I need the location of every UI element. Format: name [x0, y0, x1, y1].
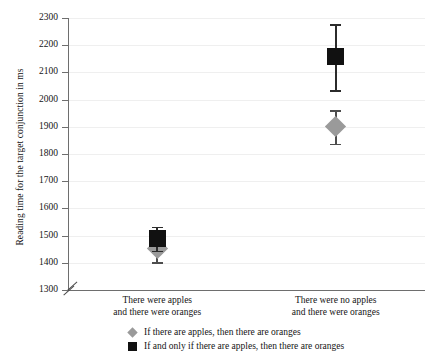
y-tick-mark — [62, 181, 68, 182]
y-tick-label: 1700 — [12, 176, 58, 186]
y-tick-mark — [62, 263, 68, 264]
y-tick-label: 2200 — [12, 40, 58, 50]
y-tick-mark — [62, 72, 68, 73]
gridline — [68, 154, 425, 155]
error-bar-chart: Reading time for the target conjunction … — [0, 0, 434, 360]
x-category-label-line: There were apples — [77, 295, 237, 307]
gridline — [68, 45, 425, 46]
y-tick-label: 1600 — [12, 203, 58, 213]
y-tick-label: 1800 — [12, 149, 58, 159]
y-tick-label: 1300 — [12, 285, 58, 295]
gridline — [68, 72, 425, 73]
y-tick-mark — [62, 290, 68, 291]
y-tick-mark — [62, 208, 68, 209]
y-tick-label: 2100 — [12, 67, 58, 77]
x-category-label: There were no applesand there were orang… — [256, 295, 416, 318]
error-bar-cap-upper — [330, 24, 341, 26]
gridline — [68, 127, 425, 128]
x-axis-line — [68, 290, 425, 291]
y-tick-mark — [62, 154, 68, 155]
gridline — [68, 100, 425, 101]
y-tick-mark — [62, 100, 68, 101]
error-bar-cap-lower — [330, 90, 341, 92]
error-bar-cap-lower — [152, 251, 163, 253]
data-marker-square — [327, 48, 344, 65]
y-tick-mark — [62, 45, 68, 46]
gridline — [68, 181, 425, 182]
y-axis-line — [68, 18, 69, 290]
x-category-label-line: and there were oranges — [256, 307, 416, 319]
y-tick-label: 2300 — [12, 13, 58, 23]
gridline — [68, 236, 425, 237]
gridline — [68, 208, 425, 209]
gridline — [68, 263, 425, 264]
gridline — [68, 18, 425, 19]
x-category-label-line: and there were oranges — [77, 307, 237, 319]
y-tick-mark — [62, 18, 68, 19]
legend-square-icon — [128, 342, 137, 351]
x-category-label-line: There were no apples — [256, 295, 416, 307]
y-tick-label: 2000 — [12, 95, 58, 105]
y-tick-label: 1400 — [12, 258, 58, 268]
x-category-label: There were applesand there were oranges — [77, 295, 237, 318]
y-tick-mark — [62, 127, 68, 128]
data-marker-square — [149, 230, 166, 247]
y-tick-label: 1500 — [12, 231, 58, 241]
y-tick-label: 1900 — [12, 122, 58, 132]
y-tick-mark — [62, 236, 68, 237]
error-bar-cap-upper — [152, 227, 163, 229]
plot-area — [68, 18, 425, 290]
legend-diamond-icon — [127, 327, 137, 337]
